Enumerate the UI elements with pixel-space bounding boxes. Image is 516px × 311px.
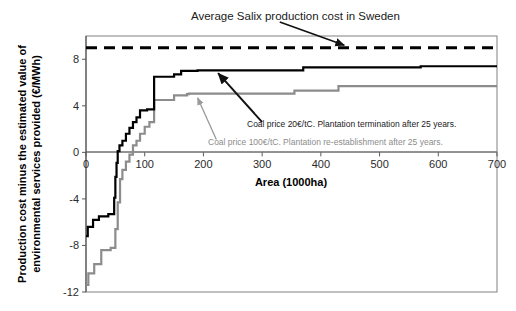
x-axis-title: Area (1000ha) <box>255 176 327 188</box>
y-axis-title-line1: Production cost minus the estimated valu… <box>16 45 28 283</box>
x-tick-label: 400 <box>312 158 330 170</box>
x-tick-label: 100 <box>136 158 154 170</box>
x-tick-label: 500 <box>370 158 388 170</box>
chart-figure: 840-4-8-12 0100200300400500600700 Averag… <box>0 0 516 311</box>
x-tick-label: 600 <box>429 158 447 170</box>
annotation-black-series: Coal price 20€/tC. Plantation terminatio… <box>247 119 456 129</box>
y-tick-label: 4 <box>73 100 79 112</box>
y-tick-label: -12 <box>63 286 79 298</box>
y-tick-label: -4 <box>69 193 79 205</box>
x-tick-label: 0 <box>83 158 89 170</box>
y-tick-label: 8 <box>73 53 79 65</box>
x-tick-label: 300 <box>253 158 271 170</box>
y-tick-label: -8 <box>69 239 79 251</box>
y-axis-ticks: 840-4-8-12 <box>63 53 86 298</box>
x-tick-label: 200 <box>194 158 212 170</box>
chart-title: Average Salix production cost in Sweden <box>191 10 400 22</box>
chart-canvas: 840-4-8-12 0100200300400500600700 Averag… <box>0 0 516 311</box>
x-tick-label: 700 <box>488 158 506 170</box>
annotation-gray-series: Coal price 100€/tC. Plantation re-establ… <box>208 137 443 147</box>
y-axis-title-line2: environmental services provided (€/MWh) <box>30 55 42 273</box>
y-tick-label: 0 <box>73 146 79 158</box>
